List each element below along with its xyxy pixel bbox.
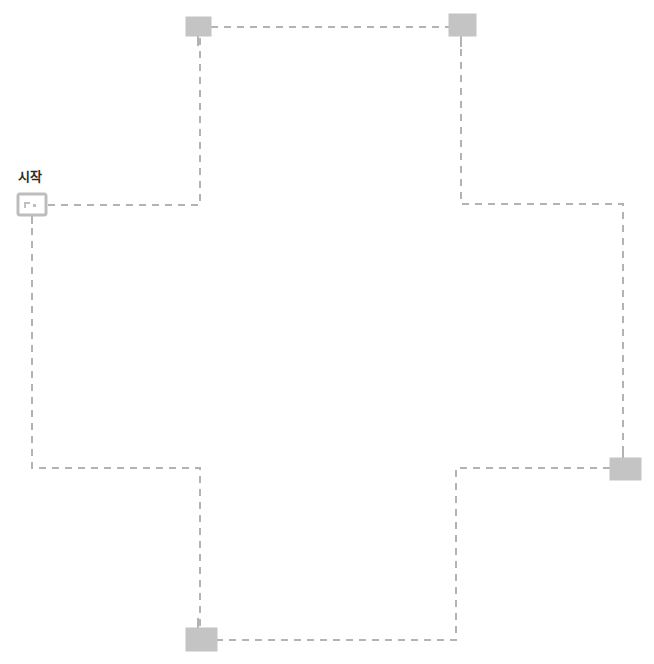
right-node-to-bottom-node[interactable] bbox=[217, 468, 610, 640]
right-node[interactable] bbox=[610, 458, 641, 480]
start-rect[interactable] bbox=[18, 194, 46, 215]
top-left-node-rect[interactable] bbox=[186, 17, 211, 36]
start-label: 시작 bbox=[18, 166, 42, 185]
start-node-inner-dot-icon bbox=[33, 204, 36, 207]
top-left-node[interactable] bbox=[186, 17, 211, 36]
bottom-node[interactable] bbox=[186, 628, 217, 651]
connectors-layer bbox=[32, 27, 623, 640]
top-right-node-rect[interactable] bbox=[449, 14, 476, 36]
top-right-node[interactable] bbox=[449, 14, 476, 36]
path-diagram bbox=[0, 0, 654, 664]
start-to-top-left[interactable] bbox=[48, 36, 200, 205]
nodes-layer bbox=[18, 14, 641, 651]
node-stems-layer bbox=[32, 36, 623, 629]
right-node-rect[interactable] bbox=[610, 458, 641, 480]
start[interactable] bbox=[18, 194, 46, 215]
bottom-node-rect[interactable] bbox=[186, 628, 217, 651]
top-right-to-right-node[interactable] bbox=[461, 36, 623, 458]
diagram-canvas: — ——— — —— — — —— —— 시작 bbox=[0, 0, 654, 664]
start-down-to-bottom-branch[interactable] bbox=[32, 215, 200, 628]
